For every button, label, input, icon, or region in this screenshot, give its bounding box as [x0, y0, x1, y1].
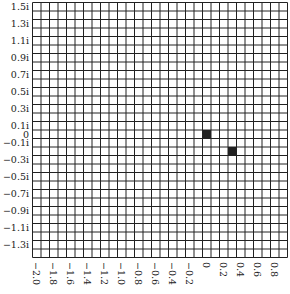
- x-tick-label: 0.8: [269, 262, 280, 277]
- y-tick-label: 0.3i: [11, 103, 29, 114]
- y-tick-label: 0.7i: [11, 69, 29, 80]
- y-tick-label: −0.3i: [3, 154, 29, 165]
- filled-cell: [228, 147, 237, 156]
- x-tick-label: 0.4: [235, 262, 246, 277]
- x-tick-label: −0.2: [184, 262, 195, 285]
- y-tick-label: −0.5i: [3, 171, 29, 182]
- y-tick-label: −1.3i: [3, 239, 29, 250]
- x-tick-label: 0.2: [218, 262, 229, 277]
- x-tick-label: −1.8: [48, 262, 59, 285]
- y-tick-label: 1.5i: [11, 1, 29, 12]
- y-tick-label: 0.9i: [11, 52, 29, 63]
- y-tick-label: 1.3i: [11, 18, 29, 29]
- x-tick-label: −0.4: [167, 262, 178, 285]
- x-tick-label: −0.8: [133, 262, 144, 285]
- x-tick-label: −0.6: [150, 262, 161, 285]
- x-tick-label: −1.6: [65, 262, 76, 285]
- x-tick-label: −1.0: [116, 262, 127, 285]
- x-tick-label: −1.2: [99, 262, 110, 285]
- complex-plane-grid-chart: 1.5i1.3i1.1i0.9i0.7i0.5i0.3i0.1i0−0.1i−0…: [0, 0, 290, 294]
- y-tick-label: −0.1i: [3, 137, 29, 148]
- y-tick-label: 0.5i: [11, 86, 29, 97]
- x-tick-label: −2.0: [31, 262, 42, 285]
- y-tick-label: −0.9i: [3, 205, 29, 216]
- filled-cell: [203, 130, 212, 139]
- y-tick-label: 1.1i: [11, 35, 29, 46]
- x-tick-label: −1.4: [82, 262, 93, 285]
- x-tick-label: 0.6: [252, 262, 263, 277]
- y-tick-label: −0.7i: [3, 188, 29, 199]
- grid: [33, 3, 288, 258]
- x-tick-label: 0: [201, 262, 212, 268]
- y-tick-label: −1.1i: [3, 222, 29, 233]
